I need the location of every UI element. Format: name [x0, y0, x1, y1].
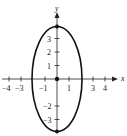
y-tick-label: 3 — [47, 35, 51, 44]
x-tick-label: −1 — [39, 84, 48, 93]
y-tick-label: 2 — [47, 48, 51, 57]
x-tick-label: −3 — [15, 84, 24, 93]
y-tick-label: −2 — [43, 102, 52, 111]
center-point — [55, 77, 59, 81]
x-axis-label: x — [120, 74, 125, 83]
x-tick-label: −4 — [2, 84, 11, 93]
vertex-top-point — [55, 25, 59, 29]
x-tick-label: 4 — [103, 84, 107, 93]
y-axis-label: y — [54, 4, 59, 13]
x-tick-label: 3 — [91, 84, 95, 93]
vertex-bottom-point — [55, 130, 59, 134]
x-axis-arrow-icon — [112, 77, 118, 82]
ellipse-plot: x y −4 −3 −1 1 3 4 3 2 1 −2 −3 — [0, 0, 127, 136]
y-tick-label: 1 — [47, 62, 51, 71]
x-tick-label: 1 — [67, 84, 71, 93]
